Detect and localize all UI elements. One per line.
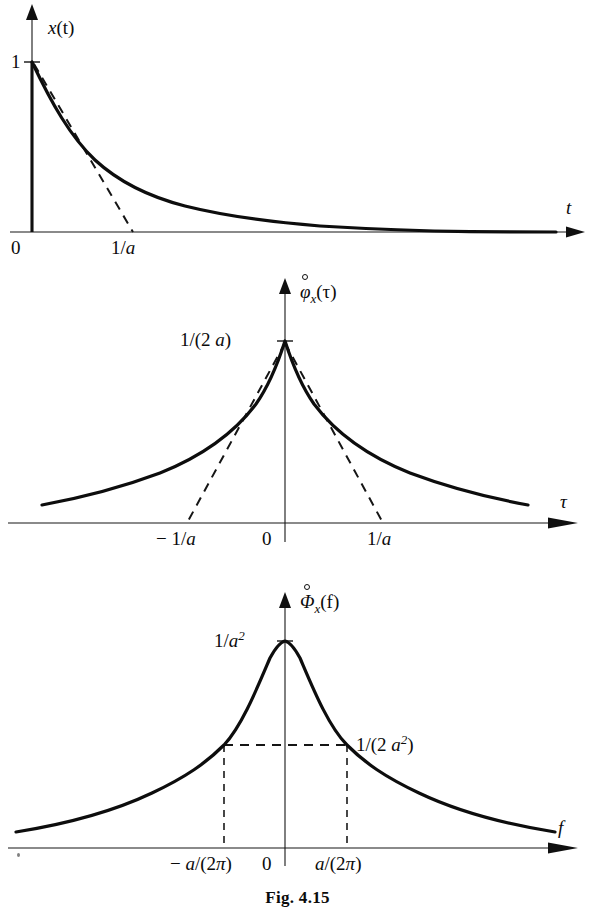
spectral-half-max-label: 1/(2 a2) xyxy=(356,733,414,754)
autocorrelation-x-axis-label: τ xyxy=(560,492,567,511)
autocorrelation-tangent-left-dashed xyxy=(187,343,285,523)
signal-x-axis-arrow xyxy=(566,227,585,238)
signal-x-tick-label-inv-a: 1/a xyxy=(111,238,135,257)
chart-autocorrelation-phi: φx(τ) 1/(2 a) − 1/a 0 1/a τ xyxy=(0,270,595,570)
autocorrelation-x-tick-label-0: 0 xyxy=(262,529,272,548)
spectral-y-tick-label-peak: 1/a2 xyxy=(214,629,245,650)
signal-curve xyxy=(32,62,556,232)
signal-x-tick-label-0: 0 xyxy=(11,238,21,257)
spectral-y-axis-arrow xyxy=(279,592,291,608)
spectral-x-axis-arrow xyxy=(548,843,578,854)
scan-artifact-speck xyxy=(17,853,20,857)
autocorrelation-x-tick-label-pos: 1/a xyxy=(367,529,391,548)
spectral-y-axis-label: Φx(f) xyxy=(300,592,339,615)
autocorrelation-y-axis-arrow xyxy=(279,278,291,294)
figure-caption: Fig. 4.15 xyxy=(0,888,595,908)
spectral-x-tick-label-0: 0 xyxy=(262,854,272,873)
autocorrelation-y-axis-label: φx(τ) xyxy=(300,282,337,305)
autocorrelation-plot-svg xyxy=(0,270,595,570)
signal-x-axis-label: t xyxy=(566,198,571,217)
autocorrelation-tangent-right-dashed xyxy=(285,343,383,523)
ring-accent-icon xyxy=(304,584,310,590)
spectral-x-axis-label: f xyxy=(558,818,563,837)
signal-y-axis-arrow xyxy=(26,4,38,20)
ring-accent-icon xyxy=(302,274,308,280)
spectral-x-tick-label-neg: − a/(2π) xyxy=(170,854,232,873)
spectral-density-plot-svg xyxy=(0,570,595,880)
signal-y-axis-label: x(t) xyxy=(48,18,74,37)
chart-signal-xt: x(t) 1 0 1/a t xyxy=(0,0,595,270)
signal-plot-svg xyxy=(0,0,595,270)
spectral-x-tick-label-pos: a/(2π) xyxy=(315,854,361,873)
autocorrelation-x-tick-label-neg: − 1/a xyxy=(156,529,196,548)
autocorrelation-y-tick-label-peak: 1/(2 a) xyxy=(180,330,231,349)
figure-4-15: x(t) 1 0 1/a t φx(τ) 1/(2 a) − 1/a 0 1/a… xyxy=(0,0,595,919)
autocorrelation-x-axis-arrow xyxy=(548,518,578,529)
chart-spectral-density-phi: Φx(f) 1/a2 1/(2 a2) − a/(2π) 0 a/(2π) f xyxy=(0,570,595,880)
signal-y-tick-label-1: 1 xyxy=(11,52,21,71)
